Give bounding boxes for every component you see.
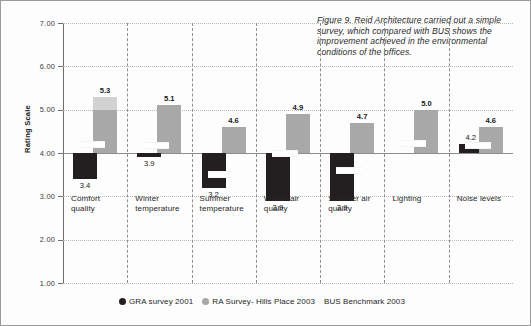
bar-ra-survey — [350, 123, 374, 153]
bar-value-label: 5.1 — [157, 94, 181, 103]
y-tick-label: 4.00 — [21, 149, 55, 158]
bar-value-label: 3.9 — [137, 159, 161, 168]
bar-group: 4.24.6 — [449, 23, 513, 283]
bar-ra-survey — [286, 114, 310, 153]
figure-frame: Figure 9. Reid Architecture carried out … — [0, 0, 531, 326]
bar-group: 2.94.7 — [320, 23, 384, 283]
bar-ra-survey-cap — [93, 97, 117, 110]
y-tick-label: 2.00 — [21, 235, 55, 244]
y-tick — [58, 283, 63, 284]
legend-swatch-gra — [119, 298, 126, 305]
bar-group: 3.45.3 — [63, 23, 127, 283]
bar-gra-survey — [137, 153, 161, 157]
bar-group: 2.94.9 — [256, 23, 320, 283]
gridline — [63, 283, 513, 284]
category-label: Comfort quality — [71, 194, 125, 214]
bar-group: 3.95.1 — [127, 23, 191, 283]
bar-value-label: 5.0 — [414, 99, 438, 108]
y-tick-label: 7.00 — [21, 19, 55, 28]
legend-label: RA Survey- Hills Place 2003 — [212, 297, 315, 306]
bus-benchmark-marker — [208, 171, 234, 178]
bar-group: 3.24.6 — [192, 23, 256, 283]
bus-benchmark-marker — [272, 150, 298, 157]
category-label: Summer air quality — [328, 194, 382, 214]
legend-item: BUS Benchmark 2003 — [324, 297, 405, 306]
bar-ra-survey — [222, 127, 246, 153]
bus-benchmark-marker — [465, 142, 491, 149]
bar-value-label: 4.6 — [222, 116, 246, 125]
bar-value-label: 5.3 — [93, 86, 117, 95]
bar-value-label: 4.7 — [350, 112, 374, 121]
bar-value-label: 3.4 — [73, 181, 97, 190]
bar-group: 5.0 — [384, 23, 448, 283]
category-label: Winter temperature — [135, 194, 189, 214]
legend-label: GRA survey 2001 — [129, 297, 193, 306]
y-tick-label: 1.00 — [21, 279, 55, 288]
category-label: Summer temperature — [200, 194, 254, 214]
y-tick-label: 3.00 — [21, 192, 55, 201]
bus-benchmark-marker — [79, 141, 105, 148]
bus-benchmark-marker — [400, 140, 426, 147]
category-label: Noise levels — [457, 194, 511, 204]
chart-legend: GRA survey 2001RA Survey- Hills Place 20… — [1, 297, 531, 306]
bar-value-label: 4.6 — [479, 116, 503, 125]
bus-benchmark-marker — [143, 142, 169, 149]
legend-item: GRA survey 2001 — [119, 297, 193, 306]
category-label: Winter air quality — [264, 194, 318, 214]
y-tick-label: 6.00 — [21, 62, 55, 71]
legend-label: BUS Benchmark 2003 — [324, 297, 405, 306]
bus-benchmark-marker — [336, 167, 362, 174]
y-tick-label: 5.00 — [21, 105, 55, 114]
legend-item: RA Survey- Hills Place 2003 — [202, 297, 315, 306]
bar-value-label: 4.9 — [286, 103, 310, 112]
category-label: Lighting — [392, 194, 446, 204]
legend-swatch-ra — [202, 298, 209, 305]
bar-gra-survey — [73, 153, 97, 179]
plot-area: 7.006.005.004.003.002.001.00 3.45.33.95.… — [63, 23, 513, 283]
